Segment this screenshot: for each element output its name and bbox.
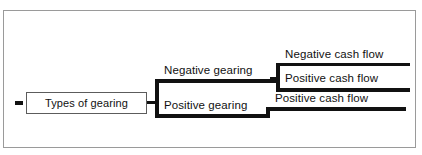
leaf-label-positive-cash-flow-upper: Positive cash flow [285,72,378,85]
leaf-arm-negative-cash-flow [276,63,410,66]
node-types-of-gearing-label: Types of gearing [27,93,146,113]
node-types-of-gearing: Types of gearing [26,92,147,114]
leaf-label-negative-cash-flow: Negative cash flow [285,48,383,61]
branch-label-negative-gearing: Negative gearing [164,64,253,77]
branch-label-positive-gearing: Positive gearing [164,99,247,112]
diagram-canvas: Types of gearing Negative gearing Positi… [0,0,422,155]
branch-arm-negative-gearing [155,79,276,83]
leaf-label-positive-cash-flow-lower: Positive cash flow [275,92,368,105]
branch-arm-positive-gearing [155,114,270,118]
root-entry-stub [15,101,23,105]
diagram-frame: Types of gearing Negative gearing Positi… [3,10,416,148]
branch-spine-level1 [155,79,159,118]
leaf-arm-positive-cash-flow-lower [266,107,406,111]
